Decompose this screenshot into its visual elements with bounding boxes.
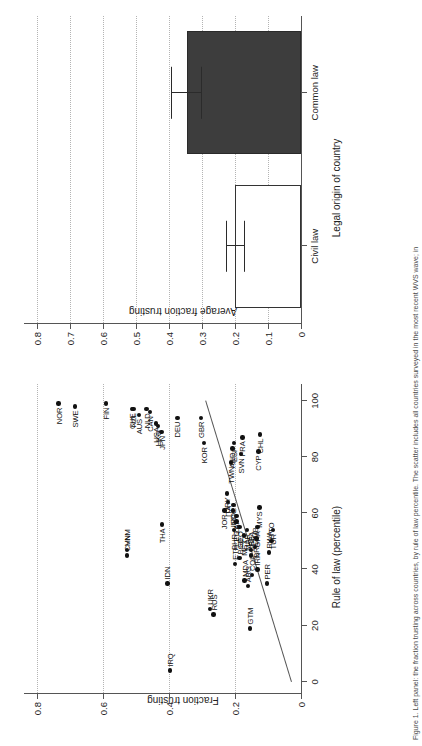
scatter-point	[265, 581, 269, 585]
scatter-point	[257, 505, 261, 509]
scatter-x-tick	[301, 456, 307, 457]
scatter-x-tick	[301, 512, 307, 513]
scatter-point-label: RUS	[209, 595, 218, 611]
scatter-x-tick	[301, 568, 307, 569]
scatter-gridline	[103, 384, 104, 693]
scatter-point-label: TUR	[268, 534, 277, 549]
scatter-point-label: PER	[262, 564, 271, 579]
scatter-point	[160, 522, 164, 526]
bar-data-layer	[24, 16, 301, 323]
error-bar-line	[226, 245, 244, 246]
scatter-point-label: TWN	[227, 467, 236, 484]
figure-caption: Figure 1. Left panel: the fraction trust…	[411, 0, 421, 746]
scatter-point	[225, 491, 229, 495]
scatter-point-label: IRN	[253, 553, 262, 566]
rotated-figure-wrapper: Fraction trusting NORSWEFINCHENZLAUSNLDC…	[0, 0, 422, 746]
bar-plot-area: 00.10.20.30.40.50.60.70.8Civil lawCommon…	[24, 16, 302, 324]
bar-y-tick-label: 0.7	[65, 332, 76, 345]
scatter-x-tick-label: 0	[309, 679, 320, 684]
scatter-point	[250, 573, 254, 577]
bar-y-tick-label: 0.3	[197, 332, 208, 345]
bar-y-tick	[268, 323, 269, 329]
bar-category-tick	[301, 245, 307, 246]
scatter-point	[211, 612, 215, 616]
scatter-point-label: IDN	[163, 567, 172, 580]
scatter-x-tick-label: 80	[309, 452, 320, 463]
scatter-y-tick-label: 0.8	[32, 702, 43, 715]
scatter-y-tick-label: 0.2	[230, 702, 241, 715]
scatter-point	[240, 435, 244, 439]
scatter-point	[234, 514, 238, 518]
scatter-point-label: GHA	[253, 531, 262, 547]
scatter-point-label: SWE	[71, 410, 80, 427]
scatter-point	[73, 404, 77, 408]
scatter-point-label: GTM	[245, 608, 254, 625]
bar-y-tick-label: 0	[296, 332, 307, 337]
bar-gridline	[37, 16, 38, 323]
scatter-point	[199, 416, 203, 420]
scatter-point-label: CYP	[254, 455, 263, 470]
scatter-panel: Fraction trusting NORSWEFINCHENZLAUSNLDC…	[18, 376, 348, 738]
bar-y-tick-label: 0.1	[263, 332, 274, 345]
scatter-x-tick	[301, 681, 307, 682]
scatter-y-tick-label: 0.6	[98, 702, 109, 715]
scatter-point	[202, 441, 206, 445]
scatter-x-tick-label: 100	[309, 393, 320, 409]
figure-page: Fraction trusting NORSWEFINCHENZLAUSNLDC…	[0, 0, 422, 746]
scatter-point-label: VNM	[123, 529, 132, 546]
scatter-point	[56, 401, 60, 405]
scatter-x-tick-label: 40	[309, 564, 320, 575]
bar-y-tick	[202, 323, 203, 329]
scatter-point	[237, 525, 241, 529]
scatter-point	[137, 413, 141, 417]
bar-category-label: Civil law	[309, 229, 320, 264]
scatter-point-label: KOR	[199, 447, 208, 463]
error-bar-cap	[201, 67, 202, 119]
scatter-point	[104, 401, 108, 405]
bar-y-tick	[169, 323, 170, 329]
bar-y-tick-label: 0.5	[131, 332, 142, 345]
scatter-point	[165, 581, 169, 585]
scatter-y-axis-title: Fraction trusting	[147, 695, 219, 706]
figure-canvas: Fraction trusting NORSWEFINCHENZLAUSNLDC…	[0, 0, 422, 746]
bar-y-tick	[301, 323, 302, 329]
error-bar-line	[171, 92, 201, 93]
scatter-point-label: FIN	[101, 408, 110, 420]
scatter-point-label: FRA	[238, 441, 247, 456]
scatter-point-label: JPN	[157, 436, 166, 450]
scatter-point	[234, 519, 238, 523]
scatter-y-tick-label: 0	[296, 702, 307, 707]
scatter-y-tick	[37, 693, 38, 699]
scatter-x-tick-label: 60	[309, 508, 320, 519]
scatter-point	[258, 432, 262, 436]
bar-gridline	[169, 16, 170, 323]
scatter-point	[267, 550, 271, 554]
scatter-point-label: THA	[157, 528, 166, 543]
scatter-data-layer: NORSWEFINCHENZLAUSNLDCANUSAHKGJPNDEUGBRK…	[24, 384, 301, 693]
bar-y-tick	[37, 323, 38, 329]
bar-y-tick	[235, 323, 236, 329]
scatter-point-label: MYS	[255, 512, 264, 528]
error-bar-cap	[226, 220, 227, 272]
bar-y-tick	[103, 323, 104, 329]
scatter-x-tick	[301, 625, 307, 626]
scatter-point	[255, 567, 259, 571]
scatter-y-tick	[103, 693, 104, 699]
bar-panel: Average fraction trusting 00.10.20.30.40…	[18, 8, 348, 368]
error-bar-cap	[171, 67, 172, 119]
bar-y-tick	[136, 323, 137, 329]
scatter-point	[248, 626, 252, 630]
scatter-point	[231, 503, 235, 507]
bar-y-tick-label: 0.2	[230, 332, 241, 345]
scatter-x-tick-label: 20	[309, 620, 320, 631]
scatter-y-tick	[301, 693, 302, 699]
scatter-point-label: NOR	[54, 408, 63, 425]
scatter-y-tick	[235, 693, 236, 699]
scatter-point-label: IRQ	[165, 653, 174, 666]
scatter-point	[246, 584, 250, 588]
scatter-point-label: CHL	[256, 439, 265, 454]
scatter-point	[159, 430, 163, 434]
bar-gridline	[70, 16, 71, 323]
bar-x-axis-title: Legal origin of country	[331, 8, 342, 368]
scatter-point	[131, 407, 135, 411]
